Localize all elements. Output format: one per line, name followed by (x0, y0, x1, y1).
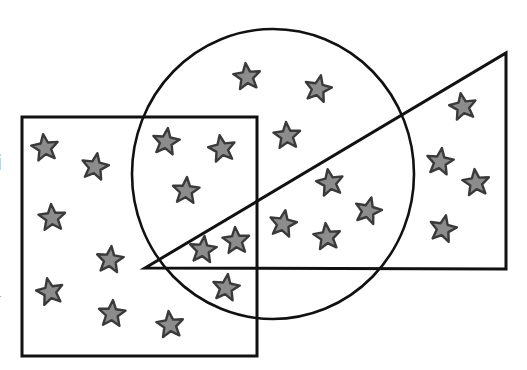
star-icon (83, 153, 109, 179)
circle-shape (132, 29, 414, 319)
star-icon (316, 169, 342, 195)
star-icon (233, 63, 259, 89)
star-icon (208, 135, 234, 161)
star-icon (271, 210, 297, 236)
star-icon (99, 300, 126, 326)
star-icon (273, 122, 300, 148)
shapes-diagram (0, 0, 527, 370)
star-icon (427, 148, 453, 174)
star-icon (156, 311, 183, 337)
star-icon (36, 278, 62, 305)
star-icon (213, 274, 239, 300)
star-icon (222, 227, 249, 253)
star-icon (462, 169, 489, 195)
star-icon (38, 204, 65, 230)
star-icon (97, 246, 124, 272)
star-icon (173, 177, 200, 203)
star-icon (306, 75, 332, 102)
star-icon (153, 128, 179, 154)
star-icon (356, 197, 382, 224)
star-icon (313, 223, 340, 249)
star-icon (431, 215, 457, 242)
star-icon (449, 93, 475, 119)
star-icon (31, 134, 57, 160)
